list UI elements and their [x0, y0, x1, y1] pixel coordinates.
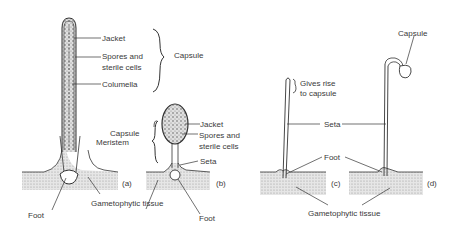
panel-label-b: (b) — [216, 179, 226, 188]
panel-label-a: (a) — [122, 179, 132, 188]
label-seta-b: Seta — [200, 157, 216, 166]
panel-label-c: (c) — [331, 179, 340, 188]
label-spores-a-line2: sterile cells — [102, 63, 142, 72]
label-gives-rise-line2: to capsule — [300, 89, 336, 98]
diagram-drawing — [0, 0, 456, 233]
label-foot-cd: Foot — [324, 153, 340, 162]
label-spores-b-line2: sterile cells — [199, 142, 239, 151]
label-capsule-b: Capsule — [110, 129, 139, 138]
label-spores-a-line1: Spores and — [102, 52, 143, 61]
label-seta-cd: Seta — [324, 120, 340, 129]
sporophyte-diagram: Jacket Spores and sterile cells Columell… — [0, 0, 456, 233]
label-foot-b: Foot — [199, 214, 215, 223]
label-gametophytic-a: Gametophytic tissue — [91, 199, 163, 208]
label-meristem-a: Meristem — [96, 138, 129, 147]
label-gives-rise-line1: Gives rise — [300, 79, 336, 88]
label-jacket-b: Jacket — [200, 120, 223, 129]
label-foot-a: Foot — [28, 211, 44, 220]
panel-a-drawing — [22, 18, 164, 210]
label-gametophytic-cd: Gametophytic tissue — [308, 209, 380, 218]
label-capsule-a: Capsule — [174, 51, 203, 60]
label-jacket-a: Jacket — [102, 34, 125, 43]
panel-d-drawing — [342, 36, 423, 205]
panel-label-d: (d) — [427, 179, 437, 188]
label-capsule-d: Capsule — [398, 29, 427, 38]
label-spores-b-line1: Spores and — [199, 131, 240, 140]
label-columella-a: Columella — [102, 80, 138, 89]
